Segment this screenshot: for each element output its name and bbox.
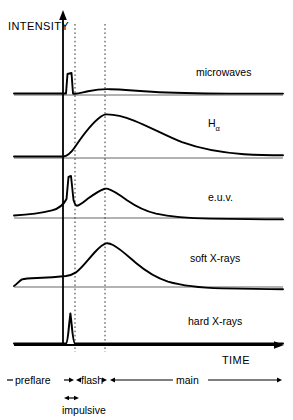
curve-soft-x-rays	[14, 243, 283, 289]
x-axis-arrowhead	[274, 341, 284, 349]
guide-lines	[75, 24, 105, 352]
y-axis-arrowhead	[59, 10, 67, 20]
phase-label-main: main	[176, 374, 199, 386]
impulsive-arrowhead-left	[64, 396, 69, 400]
phase-label-flash: flash	[81, 374, 103, 386]
trace-label-h-alpha-subscript: α	[216, 124, 221, 133]
impulsive-arrowhead-right	[74, 396, 79, 400]
phase-label-preflare: preflare	[15, 374, 51, 386]
trace-label-soft-x-rays: soft X-rays	[190, 252, 240, 264]
flare-time-profile-figure: INTENSITY TIME microwaves Hα e.u.v. soft…	[0, 0, 293, 420]
curve-h-alpha	[14, 114, 283, 156]
x-axis-label: TIME	[222, 354, 250, 366]
flare-profile-chart: INTENSITY TIME microwaves Hα e.u.v. soft…	[0, 0, 293, 420]
main-arrowhead-right	[277, 378, 282, 383]
phase-annotations: preflare flash main impulsive	[7, 374, 282, 416]
trace-label-h-alpha-text: H	[208, 117, 216, 129]
curve-hard-x-rays	[14, 314, 283, 344]
chart-axes	[14, 10, 284, 349]
trace-label-microwaves: microwaves	[196, 66, 251, 78]
trace-label-h-alpha: Hα	[208, 117, 221, 133]
phase-label-impulsive: impulsive	[62, 404, 106, 416]
phase-bar-impulsive	[64, 396, 79, 400]
trace-label-euv: e.u.v.	[208, 191, 233, 203]
preflare-arrowhead-right	[69, 378, 74, 383]
trace-baselines	[14, 95, 283, 287]
trace-label-hard-x-rays: hard X-rays	[188, 315, 242, 327]
curve-euv	[14, 176, 283, 219]
y-axis-label: INTENSITY	[8, 20, 69, 32]
